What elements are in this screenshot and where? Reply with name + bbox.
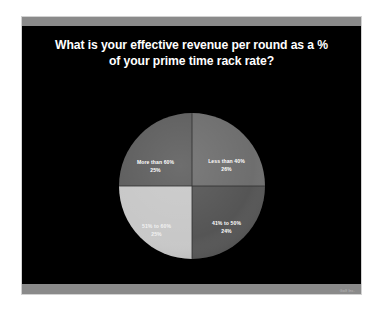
pie-slice-label-51-to-60: 51% to 60% 25%: [126, 223, 188, 239]
slide-top-bar: [22, 17, 361, 26]
pie-slice-label-41-to-50-value: 24%: [196, 228, 258, 236]
slide-bottom-bar: Golf Inc.: [22, 284, 361, 294]
watermark-text: Golf Inc.: [340, 289, 355, 293]
pie-slice-label-51-to-60-value: 25%: [126, 231, 188, 239]
pie-chart-graphic: [116, 110, 268, 262]
pie-slice-label-41-to-50: 41% to 50% 24%: [196, 220, 258, 236]
pie-slice-label-less-than-40-name: Less than 40%: [208, 158, 245, 164]
pie-slice-label-41-to-50-name: 41% to 50%: [212, 220, 241, 226]
pie-slice-label-less-than-40-value: 26%: [196, 166, 258, 174]
pie-slice-label-more-than-60-value: 25%: [125, 167, 187, 175]
pie-slice-label-51-to-60-name: 51% to 60%: [142, 223, 171, 229]
pie-slice-label-more-than-60: More than 60% 25%: [125, 159, 187, 175]
pie-slice-label-more-than-60-name: More than 60%: [137, 159, 174, 165]
pie-slice-label-less-than-40: Less than 40% 26%: [196, 158, 258, 174]
page-title: What is your effective revenue per round…: [32, 37, 351, 69]
slide-body: What is your effective revenue per round…: [22, 26, 361, 284]
page-title-line-1: What is your effective revenue per round…: [32, 37, 351, 53]
presentation-slide-frame: What is your effective revenue per round…: [21, 16, 362, 295]
pie-chart: Less than 40% 26% 41% to 50% 24% 51% to …: [116, 110, 268, 262]
page-title-line-2: of your prime time rack rate?: [32, 53, 351, 69]
